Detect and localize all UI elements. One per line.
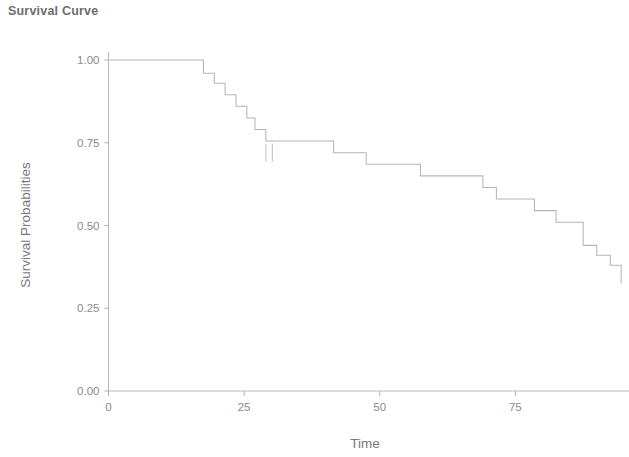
survival-curve-chart: Survival Curve 0.000.250.500.751.00 0255… [0, 0, 629, 457]
y-tick-label: 1.00 [77, 54, 99, 66]
x-tick-label: 50 [373, 401, 386, 413]
y-tick-label: 0.75 [77, 137, 99, 149]
x-tick-label: 75 [509, 401, 522, 413]
y-axis-title: Survival Probabilities [18, 162, 33, 288]
x-tick-label: 0 [105, 401, 111, 413]
x-axis-title: Time [350, 436, 380, 451]
y-tick-label: 0.25 [77, 302, 99, 314]
plot-area: 0.000.250.500.751.00 0255075 Survival Pr… [0, 0, 629, 457]
y-tick-label: 0.00 [77, 385, 99, 397]
censor-marks [266, 144, 273, 162]
y-axis-ticks: 0.000.250.500.751.00 [77, 54, 108, 397]
x-tick-label: 25 [238, 401, 251, 413]
x-axis-ticks: 0255075 [105, 391, 521, 413]
y-tick-label: 0.50 [77, 220, 99, 232]
survival-step-line [109, 60, 622, 283]
